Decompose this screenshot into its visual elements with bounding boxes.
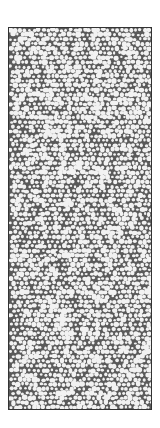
pebble-texture	[9, 28, 152, 410]
pebble-texture-panel	[8, 27, 152, 410]
